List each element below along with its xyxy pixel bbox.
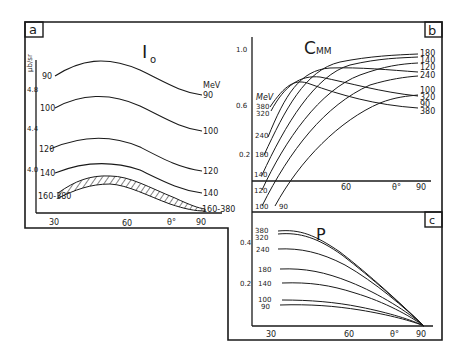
panel-c-xtick: 60 bbox=[344, 330, 354, 339]
panel-b-xvar: θ° bbox=[392, 183, 401, 192]
panel-b-xtick: 90 bbox=[416, 183, 426, 192]
panel-b-left-label: 120 bbox=[254, 187, 267, 195]
panel-a-curve-90 bbox=[55, 61, 202, 95]
panel-b-unit: MeV bbox=[256, 93, 274, 102]
panel-a-right-label: 140 bbox=[203, 189, 218, 198]
panel-a-right-label: 100 bbox=[203, 127, 218, 136]
panel-c-xtick: 90 bbox=[416, 330, 426, 339]
figure: a I o μb/sr 4.8 4.4 4.0 30 60 θ° 90 MeV … bbox=[0, 0, 466, 358]
panel-a-title: I bbox=[142, 41, 147, 62]
panel-b-title-sub: MM bbox=[316, 46, 332, 56]
panel-c-curve-380 bbox=[278, 231, 424, 326]
panel-a-right-label: 90 bbox=[203, 91, 213, 100]
panel-b-left-label: 180 bbox=[255, 151, 268, 159]
panel-c-left-label: 90 bbox=[261, 303, 270, 311]
panel-c-left-label: 180 bbox=[258, 266, 271, 274]
panel-b-right-label: 240 bbox=[420, 71, 435, 80]
panel-b-ytick: 1.0 bbox=[236, 46, 247, 54]
panel-c-title: P bbox=[316, 225, 326, 244]
panel-a-ytick: 4.8 bbox=[27, 86, 38, 94]
panel-b-curve-240 bbox=[268, 68, 418, 137]
panel-c-badge: c bbox=[429, 214, 435, 227]
panel-a-band-160-380 bbox=[58, 176, 205, 211]
panel-b-ytick: 0.6 bbox=[236, 102, 248, 110]
panel-b-left-label: 320 bbox=[256, 110, 269, 118]
panel-b: b C MM 1.0 0.6 0.2 60 θ° 90 MeV 380 320 … bbox=[236, 22, 442, 212]
panel-a: a I o μb/sr 4.8 4.4 4.0 30 60 θ° 90 MeV … bbox=[25, 22, 235, 228]
panel-b-xtick: 60 bbox=[341, 183, 351, 192]
panel-b-left-label: 140 bbox=[254, 171, 267, 179]
panel-a-xtick: 30 bbox=[49, 218, 59, 227]
panel-a-ytick: 4.0 bbox=[27, 166, 38, 174]
panel-b-curve-120 bbox=[262, 63, 418, 190]
panel-b-right-label: 380 bbox=[420, 107, 435, 116]
panel-a-curve-100 bbox=[55, 96, 202, 131]
panel-b-left-label: 240 bbox=[255, 132, 268, 140]
panel-c-ytick: 0.2 bbox=[240, 280, 251, 288]
panel-c-curve-90 bbox=[280, 305, 424, 326]
panel-c-left-label: 140 bbox=[258, 280, 271, 288]
panel-a-ytick: 4.4 bbox=[27, 125, 39, 133]
panel-c-ytick: 0.4 bbox=[240, 239, 252, 247]
panel-a-left-label: 140 bbox=[40, 169, 55, 178]
panel-b-left-label: 90 bbox=[279, 203, 288, 211]
panel-b-ytick: 0.2 bbox=[239, 151, 250, 159]
panel-c-left-label: 240 bbox=[256, 246, 269, 254]
panel-a-left-label: 120 bbox=[39, 145, 54, 154]
panel-a-left-label: 160-380 bbox=[38, 192, 71, 201]
panel-b-curve-180 bbox=[264, 54, 418, 155]
panel-a-xtick: 60 bbox=[122, 219, 132, 228]
panel-a-left-label: 90 bbox=[42, 72, 52, 81]
panel-a-title-sub: o bbox=[150, 54, 156, 65]
panel-c: c P 0.4 0.2 30 60 θ° 90 380 320 240 180 … bbox=[240, 212, 442, 339]
panel-b-badge: b bbox=[428, 23, 436, 38]
panel-a-xvar: θ° bbox=[167, 218, 176, 227]
panel-b-curve-380 bbox=[270, 82, 418, 108]
panel-a-right-label: 120 bbox=[203, 167, 218, 176]
panel-c-xtick: 30 bbox=[266, 330, 276, 339]
panel-b-title: C bbox=[304, 38, 316, 58]
panel-c-left-label: 320 bbox=[255, 234, 268, 242]
panel-a-right-label: 160-380 bbox=[202, 205, 235, 214]
panel-b-left-label: 100 bbox=[255, 203, 268, 211]
panel-c-xvar: θ° bbox=[390, 330, 399, 339]
panel-a-unit: MeV bbox=[203, 81, 221, 90]
panel-a-ylabel: μb/sr bbox=[26, 54, 34, 72]
panel-a-badge: a bbox=[29, 22, 37, 37]
panel-b-curve-140 bbox=[262, 57, 418, 175]
panel-a-xtick: 90 bbox=[196, 218, 206, 227]
panel-a-left-label: 100 bbox=[40, 104, 55, 113]
